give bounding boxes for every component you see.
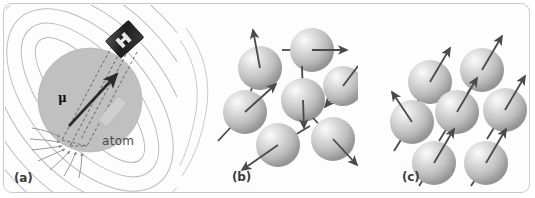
panel-a-label: (a) [14,171,32,185]
panel-c: (c) [358,0,535,198]
mu-symbol-label: μ [58,91,67,105]
atom-sphere-group-b [218,28,358,170]
panel-b-bleed-field-lines [180,28,208,176]
atom-caption: atom [102,134,134,148]
panel-b: (b) [180,0,358,198]
atom-with-moment [323,66,358,107]
atom-with-moment [282,28,347,72]
panel-a-graphic [0,0,180,198]
panel-b-graphic [180,0,358,198]
atom-sphere-group-c [390,36,527,186]
panel-c-graphic [358,0,535,198]
atom-with-moment [281,66,325,128]
panel-a: μ atom (a) [0,0,180,198]
panel-c-label: (c) [402,170,419,184]
magnetic-dipole-figure: μ atom (a) [0,0,535,198]
atom-with-moment [311,117,357,165]
atom-with-moment [464,129,508,186]
panel-b-label: (b) [232,170,251,184]
